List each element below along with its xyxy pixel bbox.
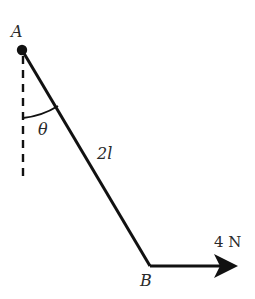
label-point-a: A: [11, 24, 23, 40]
label-force: 4 N: [214, 235, 241, 250]
label-angle-theta: θ: [38, 122, 48, 138]
label-rod-length: 2l: [97, 146, 112, 162]
rod-ab: [22, 50, 150, 266]
rod-diagram: [0, 0, 255, 299]
pivot-a-dot: [17, 45, 27, 55]
angle-theta-arc: [23, 106, 58, 118]
label-point-b: B: [140, 273, 152, 289]
